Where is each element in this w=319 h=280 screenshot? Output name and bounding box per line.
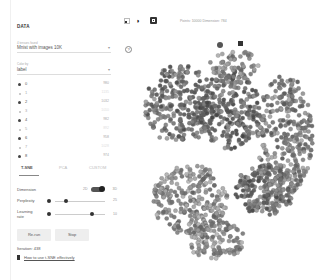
info-icon[interactable] — [47, 199, 51, 203]
tab-pca[interactable]: PCA — [59, 165, 67, 170]
left-panel: DATA 4 tensors found Mnist with images 1… — [10, 0, 114, 280]
label-item[interactable]: 4982 — [17, 117, 111, 125]
perplexity-label: Perplexity — [17, 198, 35, 203]
label-count: 1010 — [101, 108, 109, 112]
dimension-2d-label: 2D — [83, 187, 87, 191]
label-count: 980 — [103, 81, 109, 85]
dimension-label: Dimension — [17, 187, 36, 192]
book-icon — [17, 255, 20, 260]
label-count: 974 — [103, 153, 109, 157]
status-text: Points: 10000 Dimension: 784 — [180, 19, 227, 23]
color-swatch-icon — [18, 101, 21, 104]
label-item[interactable]: 71028 — [17, 144, 111, 152]
tab-custom[interactable]: CUSTOM — [89, 165, 106, 170]
label-item[interactable]: 0980 — [17, 81, 111, 89]
label-item[interactable]: 31010 — [17, 108, 111, 116]
label-name: 1 — [25, 90, 27, 95]
color-swatch-icon — [18, 83, 21, 86]
label-icon[interactable] — [150, 17, 157, 24]
learning-rate-value: 10 — [113, 212, 117, 216]
label-name: 8 — [25, 153, 27, 158]
projection-tabs: T-SNE PCA CUSTOM — [17, 163, 111, 175]
dimension-row: Dimension 2D 3D — [17, 185, 117, 195]
tsne-help-link-text: How to use t-SNE effectively — [24, 255, 75, 260]
toggle-knob — [99, 186, 105, 192]
color-swatch-icon — [18, 119, 21, 122]
night-mode-icon[interactable]: ◗ — [136, 17, 140, 25]
select-icon[interactable] — [124, 18, 130, 24]
label-name: 7 — [25, 144, 27, 149]
label-count: 982 — [103, 117, 109, 121]
color-by-select[interactable]: label ▾ — [17, 67, 111, 75]
chevron-down-icon: ▾ — [108, 46, 110, 50]
tsne-help-link[interactable]: How to use t-SNE effectively — [17, 255, 75, 260]
color-swatch-icon — [19, 111, 21, 113]
perplexity-slider-knob[interactable] — [64, 199, 68, 203]
label-count: 892 — [103, 126, 109, 130]
chevron-down-icon: ▾ — [108, 68, 110, 72]
label-name: 4 — [25, 117, 27, 122]
color-swatch-icon — [18, 137, 21, 140]
rerun-button[interactable]: Re-run — [17, 229, 51, 241]
learning-rate-slider-knob[interactable] — [90, 212, 94, 216]
perplexity-slider-track[interactable] — [55, 201, 105, 202]
label-item[interactable]: 8974 — [17, 153, 111, 161]
color-swatch-icon — [18, 155, 21, 158]
label-name: 6 — [25, 135, 27, 140]
label-name: 0 — [25, 81, 27, 86]
label-count: 1028 — [101, 144, 109, 148]
label-count: 1135 — [101, 90, 109, 94]
scatter-plot[interactable] — [135, 35, 319, 280]
learning-rate-slider-track[interactable] — [55, 214, 105, 215]
color-by-value: label — [17, 67, 27, 72]
label-count: 958 — [103, 135, 109, 139]
label-item[interactable]: 6958 — [17, 135, 111, 143]
dimension-3d-label: 3D — [113, 187, 117, 191]
active-tab-indicator — [19, 175, 39, 176]
label-name: 5 — [25, 126, 27, 131]
iteration-count: Iteration: 438 — [17, 246, 40, 251]
tensor-select[interactable]: Mnist with images 10K ▾ — [17, 45, 111, 53]
tensor-select-value: Mnist with images 10K — [17, 45, 62, 50]
tab-tsne[interactable]: T-SNE — [21, 165, 33, 170]
label-item[interactable]: 21032 — [17, 99, 111, 107]
color-swatch-icon — [19, 147, 21, 149]
stop-button[interactable]: Stop — [55, 229, 89, 241]
perplexity-row: Perplexity 25 — [17, 196, 117, 206]
color-by-label: Color by — [17, 62, 28, 66]
learning-rate-label: Learning rate — [17, 209, 37, 219]
color-swatch-icon — [19, 129, 21, 131]
label-count: 1032 — [101, 99, 109, 103]
label-item[interactable]: 11135 — [17, 90, 111, 98]
learning-rate-row: Learning rate 10 — [17, 207, 117, 221]
label-name: 2 — [25, 99, 27, 104]
help-icon[interactable]: ? — [125, 46, 132, 53]
perplexity-value: 25 — [113, 198, 117, 202]
label-item[interactable]: 5892 — [17, 126, 111, 134]
color-swatch-icon — [19, 93, 21, 95]
section-title: DATA — [17, 24, 30, 29]
info-icon[interactable] — [47, 212, 51, 216]
label-name: 3 — [25, 108, 27, 113]
